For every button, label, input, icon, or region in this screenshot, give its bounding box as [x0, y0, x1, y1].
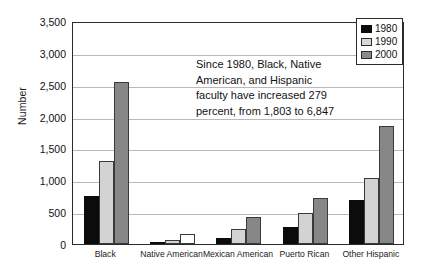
- bar: [364, 178, 379, 244]
- y-tick-label: 2,000: [0, 112, 66, 124]
- legend-item[interactable]: 2000: [361, 48, 397, 61]
- x-tick-label: Other Hispanic: [342, 249, 399, 259]
- x-tick-label: Mexican American: [203, 249, 273, 259]
- y-tick-label: 2,500: [0, 80, 66, 92]
- legend-swatch-1990: [361, 38, 372, 46]
- legend-swatch-1980: [361, 25, 372, 33]
- x-tick-label: Native American: [140, 249, 203, 259]
- bar: [114, 82, 129, 244]
- annotation-line: percent, from 1,803 to 6,847: [196, 104, 362, 120]
- bar: [150, 242, 165, 244]
- chart-annotation: Since 1980, Black, NativeAmerican, and H…: [196, 57, 362, 119]
- bar: [216, 238, 231, 244]
- legend-item[interactable]: 1980: [361, 22, 397, 35]
- y-tick-label: 3,000: [0, 48, 66, 60]
- bar: [379, 126, 394, 244]
- legend-swatch-2000: [361, 51, 372, 59]
- bar-chart-figure: Number 3,5003,0002,5002,0001,5001,000500…: [0, 0, 430, 272]
- bar: [84, 196, 99, 244]
- legend-label: 2000: [375, 50, 397, 60]
- bar: [313, 198, 328, 245]
- y-tick-label: 500: [0, 207, 66, 219]
- annotation-line: faculty have increased 279: [196, 88, 362, 104]
- legend-label: 1980: [375, 24, 397, 34]
- bar-group: [73, 23, 139, 244]
- x-tick-label: Black: [95, 249, 116, 259]
- bar: [165, 240, 180, 244]
- y-tick-label: 1,000: [0, 175, 66, 187]
- bar: [99, 161, 114, 244]
- annotation-line: Since 1980, Black, Native: [196, 57, 362, 73]
- bar: [246, 217, 261, 244]
- legend-label: 1990: [375, 37, 397, 47]
- legend-item[interactable]: 1990: [361, 35, 397, 48]
- bar: [231, 229, 246, 244]
- y-tick-label: 3,500: [0, 16, 66, 28]
- bar: [298, 213, 313, 244]
- chart-legend: 198019902000: [356, 18, 403, 65]
- bar: [283, 227, 298, 244]
- y-tick-label: 1,500: [0, 143, 66, 155]
- y-tick-label: 0: [0, 239, 66, 251]
- annotation-line: American, and Hispanic: [196, 73, 362, 89]
- plot-area: [72, 22, 404, 245]
- bar: [349, 200, 364, 244]
- bar: [180, 234, 195, 244]
- x-tick-label: Puerto Rican: [280, 249, 330, 259]
